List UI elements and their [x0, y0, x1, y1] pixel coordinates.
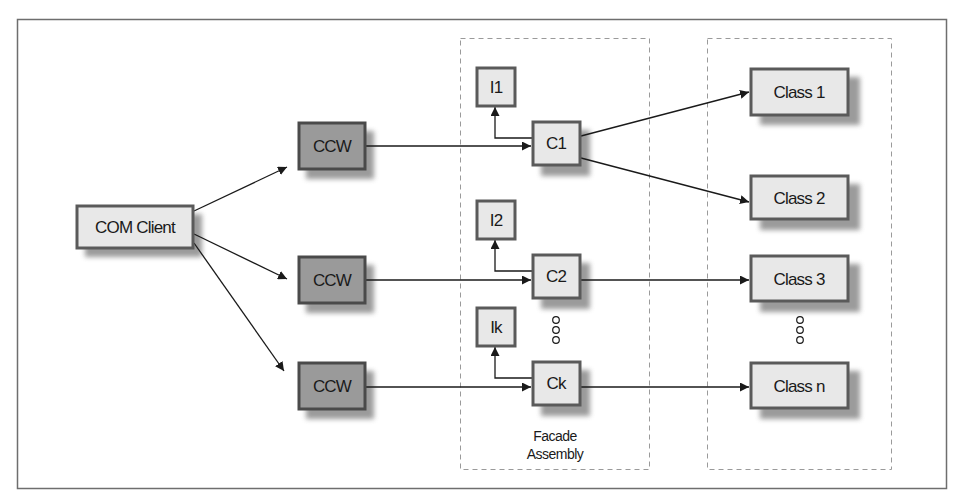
targets-ellipsis-icon: [797, 317, 804, 344]
connectors: [194, 92, 749, 387]
edge-ck-ik: [495, 347, 532, 378]
target-class-label-1: Class 1: [773, 83, 824, 102]
interface-label-i2: I2: [490, 211, 503, 230]
interface-label-ik: Ik: [490, 318, 503, 337]
edge-c2-i2: [495, 240, 532, 271]
com-client-label: COM Client: [95, 218, 176, 237]
facade-class-label-c1: C1: [546, 134, 566, 153]
target-class-node-2[interactable]: Class 2: [751, 176, 848, 219]
edge-client-ccw1: [194, 167, 287, 211]
target-class-label-n: Class n: [773, 377, 824, 396]
interface-node-i1[interactable]: I1: [477, 68, 515, 106]
interface-node-i2[interactable]: I2: [477, 201, 515, 239]
target-class-node-1[interactable]: Class 1: [751, 69, 848, 115]
facade-ellipsis-icon: [553, 317, 560, 344]
facade-class-node-c2[interactable]: C2: [533, 255, 580, 298]
target-class-label-3: Class 3: [773, 270, 824, 289]
interface-node-ik[interactable]: Ik: [477, 308, 515, 346]
edge-c1-class1: [581, 92, 749, 136]
ccw-node-1[interactable]: CCW: [299, 123, 365, 169]
com-client-node[interactable]: COM Client: [77, 206, 193, 248]
facade-class-label-ck: Ck: [546, 374, 566, 393]
box-shadows: [85, 77, 860, 419]
ccw-node-3[interactable]: CCW: [299, 363, 365, 409]
target-class-node-3[interactable]: Class 3: [751, 256, 848, 301]
target-class-node-n[interactable]: Class n: [751, 363, 848, 408]
edge-c1-class2: [581, 158, 749, 202]
facade-class-node-c1[interactable]: C1: [533, 122, 580, 165]
ccw-label-1: CCW: [313, 137, 352, 156]
edge-c1-i1: [495, 107, 532, 138]
interface-label-i1: I1: [490, 78, 503, 97]
diagram-canvas: COM Client CCW CCW CCW I1 I2 Ik C1 C2 Ck: [0, 0, 962, 499]
ccw-label-2: CCW: [313, 271, 352, 290]
facade-caption-line1: Facade: [533, 428, 577, 444]
edge-client-ccw3: [194, 243, 284, 371]
facade-caption-line2: Assembly: [527, 446, 584, 462]
ccw-node-2[interactable]: CCW: [299, 257, 365, 303]
facade-class-label-c2: C2: [546, 267, 566, 286]
ccw-label-3: CCW: [313, 377, 352, 396]
target-class-label-2: Class 2: [773, 189, 824, 208]
edge-client-ccw2: [194, 234, 287, 279]
facade-class-node-ck[interactable]: Ck: [533, 362, 580, 405]
